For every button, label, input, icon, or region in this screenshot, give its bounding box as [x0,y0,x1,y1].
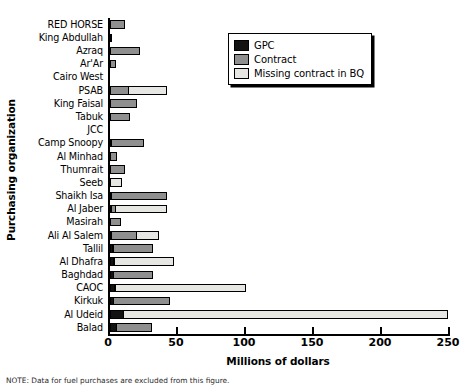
stacked-bar [110,218,120,226]
legend-swatch-gpc [234,40,249,51]
y-axis-tick-label: Camp Snoopy [16,137,106,150]
bar-segment-gpc [110,310,124,318]
legend-swatch-contract [234,54,249,65]
stacked-bar [110,113,129,121]
bar-row [110,202,450,215]
y-axis-tick-label: Al Udeid [16,308,106,321]
stacked-bar [110,20,124,28]
bar-row [110,242,450,255]
stacked-bar [110,139,144,147]
bar-row [110,229,450,242]
bar-segment-contract [111,192,167,200]
stacked-bar [110,284,245,292]
x-axis-tick-label: 100 [233,336,256,349]
legend-swatch-missing [234,68,249,79]
y-axis-tick-label: RED HORSE [16,18,106,31]
bar-segment-contract [110,113,130,121]
bar-row [110,150,450,163]
bar-segment-missing [128,86,167,94]
bar-row [110,189,450,202]
y-axis-tick-label: Ali Al Salem [16,229,106,242]
stacked-bar [110,47,139,55]
stacked-bar [110,244,152,252]
bar-segment-contract [110,60,116,68]
y-axis-tick-label: Al Minhad [16,150,106,163]
stacked-bar [110,99,136,107]
x-axis-tick-mark [380,327,382,334]
bar-segment-contract [111,231,137,239]
bar-row [110,123,450,136]
legend-item: Missing contract in BQ [234,66,364,80]
stacked-bar [110,231,158,239]
y-axis-tick-label: Balad [16,321,106,334]
x-axis-tick-label: 150 [301,336,324,349]
y-axis-tick-label: Azraq [16,44,106,57]
legend-label: Missing contract in BQ [254,68,364,79]
y-axis-tick-label: Kirkuk [16,295,106,308]
stacked-bar [110,271,152,279]
y-axis-tick-labels: RED HORSEKing AbdullahAzraqAr'ArCairo We… [16,18,106,334]
bar-segment-contract [110,20,125,28]
bar-segment-contract [116,323,152,331]
y-axis-tick-label: Thumrait [16,163,106,176]
y-axis-tick-label: King Abdullah [16,31,106,44]
bar-segment-contract [110,218,121,226]
bar-row [110,268,450,281]
stacked-bar [110,323,151,331]
bar-segment-contract [110,99,137,107]
bar-row [110,163,450,176]
bar-row [110,321,450,334]
bar-row [110,176,450,189]
y-axis-tick-label: PSAB [16,84,106,97]
bar-segment-missing [114,257,174,265]
bar-row [110,308,450,321]
stacked-bar [110,178,121,186]
y-axis-tick-label: Al Jaber [16,202,106,215]
y-axis-tick-label: Tallil [16,242,106,255]
bar-segment-contract [110,47,140,55]
y-axis-tick-label: Cairo West [16,71,106,84]
stacked-bar [110,60,115,68]
bar-segment-missing [123,310,448,318]
x-axis-tick-mark [176,327,178,334]
bar-row [110,255,450,268]
bar-segment-missing [110,178,122,186]
y-axis-tick-label: Seeb [16,176,106,189]
bar-row [110,216,450,229]
bar-row [110,295,450,308]
x-axis-tick-mark [448,327,450,334]
bar-segment-contract [113,244,154,252]
stacked-bar [110,205,166,213]
bar-row [110,97,450,110]
x-axis-tick-labels: 050100150200250 [108,336,448,352]
y-axis-tick-label: CAOC [16,281,106,294]
bar-segment-contract [110,34,112,42]
x-axis-tick-label: 50 [168,336,183,349]
y-axis-tick-label: Masirah [16,216,106,229]
legend-label: Contract [254,54,296,65]
x-axis-tick-label: 0 [104,336,112,349]
stacked-bar [110,152,117,160]
chart-legend: GPCContractMissing contract in BQ [228,33,372,85]
x-axis-tick-label: 200 [369,336,392,349]
stacked-bar [110,86,166,94]
y-axis-tick-label: Ar'Ar [16,58,106,71]
bar-segment-contract [113,297,170,305]
y-axis-tick-label: Al Dhafra [16,255,106,268]
stacked-bar [110,34,111,42]
stacked-bar [110,297,169,305]
bar-segment-contract [111,139,144,147]
bar-segment-missing [115,284,246,292]
bar-row [110,137,450,150]
bar-segment-contract [110,152,117,160]
y-axis-tick-label: JCC [16,123,106,136]
stacked-bar [110,165,124,173]
bar-row [110,281,450,294]
stacked-bar [110,310,447,318]
bar-segment-contract [110,165,125,173]
bar-segment-contract [113,271,153,279]
bar-row [110,84,450,97]
x-axis-tick-label: 250 [437,336,460,349]
y-axis-tick-label: Tabuk [16,110,106,123]
